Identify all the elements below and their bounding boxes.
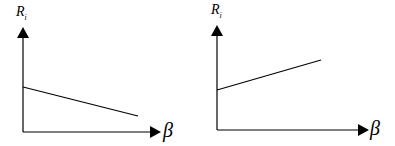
right-y-label-sub: i bbox=[220, 11, 222, 20]
left-y-label-main: R bbox=[16, 4, 25, 19]
right-x-axis-label: β bbox=[370, 117, 380, 140]
right-chart bbox=[211, 25, 369, 136]
left-x-axis-label: β bbox=[163, 119, 173, 142]
left-x-arrowhead-icon bbox=[150, 126, 161, 138]
left-y-label-sub: i bbox=[25, 13, 27, 22]
left-y-arrowhead-icon bbox=[17, 27, 29, 38]
left-data-line bbox=[23, 87, 138, 116]
diagram-canvas bbox=[0, 0, 395, 146]
left-y-axis-label: Ri bbox=[16, 4, 27, 22]
right-y-label-main: R bbox=[211, 2, 220, 17]
left-chart bbox=[17, 27, 161, 138]
right-x-arrowhead-icon bbox=[358, 124, 369, 136]
right-data-line bbox=[217, 60, 321, 90]
right-y-axis-label: Ri bbox=[211, 2, 222, 20]
right-y-arrowhead-icon bbox=[211, 25, 223, 36]
